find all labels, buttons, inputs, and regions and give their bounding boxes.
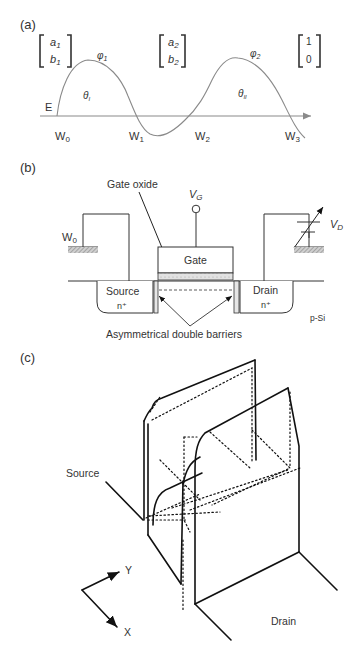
phi2-label: φ2	[250, 48, 261, 60]
barriers-label: Asymmetrical double barriers	[106, 328, 242, 340]
theta2-label: θII	[238, 88, 247, 100]
source-label: Source	[66, 467, 99, 479]
gate-oxide-layer	[158, 273, 233, 280]
source-doping: n⁺	[117, 301, 127, 311]
substrate-label: p-Si	[310, 313, 325, 323]
panel-c-label: (c)	[20, 350, 35, 365]
w0-label: W0	[55, 130, 70, 144]
svg-text:1: 1	[306, 36, 312, 47]
drain-label: Drain	[271, 615, 296, 627]
svg-text:a1: a1	[50, 36, 61, 50]
vd-label: VD	[330, 218, 343, 232]
energy-label: E	[45, 101, 52, 113]
gate-oxide-label: Gate oxide	[107, 178, 158, 190]
svg-text:b1: b1	[50, 53, 61, 67]
w2-label: W2	[195, 130, 210, 144]
panel-a: (a) a1 b1 a2 b2 1 0 φ1 φ2 θI θII	[20, 17, 320, 144]
drain-label: Drain	[253, 284, 278, 296]
gate-terminal-icon	[192, 205, 200, 213]
w0-label: W0	[62, 231, 77, 245]
drain-barrier-hidden	[148, 392, 300, 610]
panel-b: (b) Gate oxide VG Gate W0 VD Source n⁺	[20, 160, 343, 340]
panel-a-label: (a)	[20, 17, 36, 32]
gate-label: Gate	[184, 254, 207, 266]
drain-barrier	[234, 281, 239, 313]
w1-label: W1	[129, 130, 144, 144]
svg-text:0: 0	[306, 54, 312, 65]
barrier-curve	[57, 58, 305, 138]
panel-b-label: (b)	[20, 160, 36, 175]
source-barrier-sheet	[106, 360, 256, 584]
drain-barrier-sheet	[195, 388, 337, 640]
vector-a1-b1: a1 b1	[40, 35, 71, 67]
svg-text:a2: a2	[168, 36, 179, 50]
theta1-label: θI	[83, 90, 90, 102]
source-barrier	[154, 281, 158, 313]
vector-a2-b2: a2 b2	[160, 35, 185, 67]
figure-canvas: (a) a1 b1 a2 b2 1 0 φ1 φ2 θI θII	[0, 0, 353, 656]
vg-label: VG	[189, 188, 203, 202]
ground-icon	[68, 247, 98, 253]
vector-1-0: 1 0	[299, 35, 320, 67]
y-axis-label: Y	[125, 564, 132, 576]
w3-label: W3	[285, 130, 300, 144]
x-axis-arrow	[82, 590, 117, 627]
source-label: Source	[106, 285, 139, 297]
drain-doping: n⁺	[261, 300, 271, 310]
y-axis-arrow	[82, 572, 119, 590]
phi1-label: φ1	[97, 50, 108, 62]
ground-icon	[294, 247, 324, 253]
svg-text:b2: b2	[168, 53, 179, 67]
panel-c: (c)	[20, 350, 337, 640]
coordinate-axes	[82, 572, 119, 627]
x-axis-label: X	[124, 626, 131, 638]
